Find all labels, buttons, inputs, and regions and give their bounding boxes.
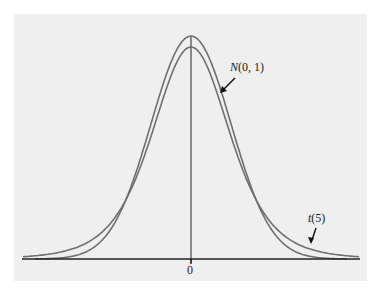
t-arrow bbox=[308, 228, 316, 244]
x-tick-label-0: 0 bbox=[187, 263, 193, 278]
normal-label: N(0, 1) bbox=[230, 60, 264, 75]
normal-arrow bbox=[220, 78, 235, 93]
density-chart bbox=[0, 0, 382, 293]
t-label: t(5) bbox=[308, 211, 325, 226]
